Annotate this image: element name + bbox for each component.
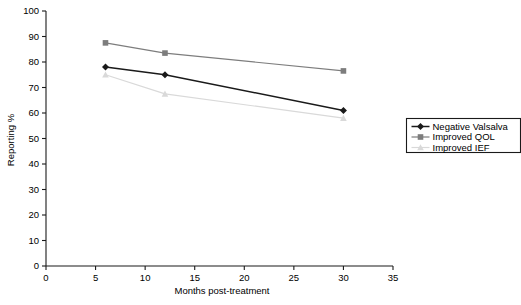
data-point <box>341 68 347 74</box>
x-tick-label: 20 <box>239 272 250 283</box>
series-negative-valsalva <box>102 64 347 114</box>
legend-marker <box>418 134 424 140</box>
x-tick-label: 30 <box>338 272 349 283</box>
y-tick-label: 10 <box>28 235 39 246</box>
legend-label: Negative Valsalva <box>433 121 509 132</box>
data-point <box>340 107 347 114</box>
y-tick-label: 100 <box>23 5 39 16</box>
chart-legend: Negative ValsalvaImproved QOLImproved IE… <box>407 119 521 153</box>
legend-label: Improved IEF <box>433 142 490 153</box>
data-series-group <box>102 40 347 121</box>
x-tick-label: 25 <box>289 272 300 283</box>
line-chart: 0102030405060708090100 05101520253035 Mo… <box>0 0 521 305</box>
y-tick-label: 20 <box>28 209 39 220</box>
y-axis-title: Reporting % <box>5 113 16 166</box>
x-tick-label: 5 <box>93 272 98 283</box>
chart-figure: 0102030405060708090100 05101520253035 Mo… <box>0 0 521 305</box>
x-axis-title: Months post-treatment <box>174 285 269 296</box>
y-tick-label: 70 <box>28 82 39 93</box>
y-tick-label: 50 <box>28 133 39 144</box>
x-tick-label: 35 <box>388 272 399 283</box>
y-tick-label: 80 <box>28 56 39 67</box>
x-tick-label: 0 <box>43 272 48 283</box>
legend-label: Improved QOL <box>433 131 495 142</box>
series-improved-qol <box>103 40 347 74</box>
y-tick-label: 0 <box>34 260 39 271</box>
data-point <box>102 71 109 77</box>
y-axis-ticks: 0102030405060708090100 <box>23 5 46 271</box>
series-improved-ief <box>102 71 347 120</box>
x-tick-label: 10 <box>140 272 151 283</box>
x-axis-ticks: 05101520253035 <box>43 266 398 283</box>
y-tick-label: 60 <box>28 107 39 118</box>
series-line <box>105 43 343 71</box>
series-line <box>105 67 343 110</box>
y-tick-label: 30 <box>28 184 39 195</box>
data-point <box>162 50 168 56</box>
series-line <box>105 75 343 118</box>
data-point <box>161 71 168 78</box>
y-tick-label: 40 <box>28 158 39 169</box>
data-point <box>103 40 109 46</box>
x-tick-label: 15 <box>189 272 200 283</box>
y-tick-label: 90 <box>28 31 39 42</box>
data-point <box>102 64 109 71</box>
